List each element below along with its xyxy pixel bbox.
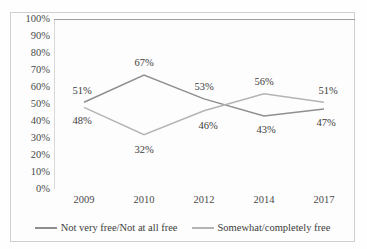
y-axis-tick-label: 50% [4,99,50,109]
legend-label: Somewhat/completely free [218,222,331,234]
legend-line-swatch [192,227,214,229]
y-axis: 100%90%80%70%60%50%40%30%20%10%0% [0,19,50,189]
y-axis-tick-label: 60% [4,82,50,92]
data-point-label: 53% [194,80,213,91]
line-chart-figure: 100%90%80%70%60%50%40%30%20%10%0% 51%67%… [0,0,367,249]
x-axis: 20092010201220142017 [54,194,354,210]
data-point-label: 56% [254,75,273,86]
y-axis-tick-label: 80% [4,48,50,58]
y-axis-tick-label: 70% [4,65,50,75]
data-point-label: 51% [318,85,337,96]
series-lines [54,19,354,189]
y-axis-tick-label: 20% [4,150,50,160]
data-point-label: 46% [198,119,217,130]
y-axis-tick-label: 100% [4,14,50,24]
y-axis-tick-label: 40% [4,116,50,126]
y-axis-tick-label: 90% [4,31,50,41]
y-axis-tick-label: 0% [4,184,50,194]
legend-item[interactable]: Somewhat/completely free [192,222,331,234]
data-point-label: 32% [134,143,153,154]
y-axis-tick-label: 30% [4,133,50,143]
data-point-label: 67% [134,57,153,68]
legend-label: Not very free/Not at all free [61,222,178,234]
x-axis-tick-label: 2009 [54,194,114,206]
y-axis-tick-label: 10% [4,167,50,177]
legend-item[interactable]: Not very free/Not at all free [35,222,178,234]
data-point-label: 47% [316,117,335,128]
x-axis-tick-label: 2010 [114,194,174,206]
data-point-label: 48% [72,115,91,126]
chart-legend: Not very free/Not at all freeSomewhat/co… [10,218,355,238]
data-point-label: 43% [256,123,275,134]
legend-line-swatch [35,227,57,229]
x-axis-tick-label: 2012 [174,194,234,206]
x-axis-tick-label: 2017 [294,194,354,206]
data-point-label: 51% [72,85,91,96]
x-axis-tick-label: 2014 [234,194,294,206]
